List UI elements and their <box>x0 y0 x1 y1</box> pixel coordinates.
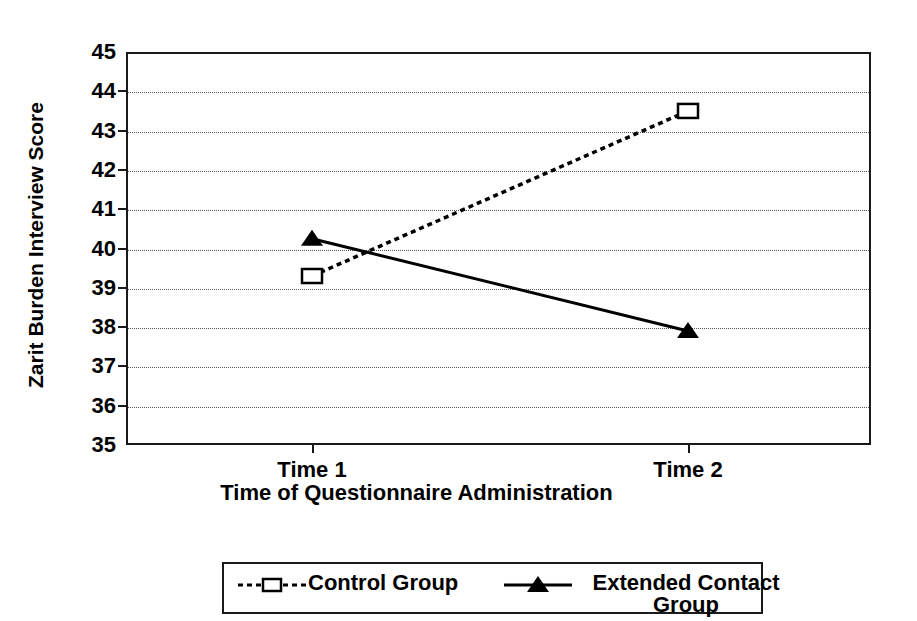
plot-area <box>126 52 871 445</box>
gridline <box>128 132 869 133</box>
y-tick-label: 36 <box>68 395 116 417</box>
y-tick-label: 41 <box>68 198 116 220</box>
y-tick-label: 38 <box>68 316 116 338</box>
y-tick-label: 37 <box>68 355 116 377</box>
legend: Control Group Extended Contact Group <box>222 562 763 614</box>
legend-label-control-group: Control Group <box>308 572 458 594</box>
legend-label-extended-contact-group: Extended Contact Group <box>574 572 798 617</box>
y-tick-label: 42 <box>68 159 116 181</box>
gridline <box>128 92 869 93</box>
x-axis-title-text: Time of Questionnaire Administration <box>220 480 612 506</box>
legend-key-dotted-square-icon <box>236 572 308 598</box>
gridline <box>128 407 869 408</box>
gridline <box>128 210 869 211</box>
x-tick-mark <box>312 444 314 453</box>
legend-key-solid-triangle-icon <box>502 572 574 598</box>
y-axis-title-text: Zarit Burden Interview Score <box>24 102 48 388</box>
y-tick-label: 39 <box>68 277 116 299</box>
y-tick-label: 45 <box>68 41 116 63</box>
legend-item-control-group[interactable]: Control Group <box>236 572 458 598</box>
y-tick-label: 43 <box>68 120 116 142</box>
gridline <box>128 367 869 368</box>
gridline <box>128 171 869 172</box>
y-axis-title: Zarit Burden Interview Score <box>18 45 54 445</box>
gridline <box>128 328 869 329</box>
y-tick-label: 35 <box>68 434 116 456</box>
x-tick-mark <box>688 444 690 453</box>
y-tick-label: 44 <box>68 80 116 102</box>
gridline <box>128 250 869 251</box>
gridline <box>128 289 869 290</box>
x-axis-title: Time of Questionnaire Administration <box>0 480 917 506</box>
legend-item-extended-contact-group[interactable]: Extended Contact Group <box>502 572 798 617</box>
chart-figure: Zarit Burden Interview Score 45444342414… <box>0 0 917 621</box>
y-tick-label: 40 <box>68 238 116 260</box>
